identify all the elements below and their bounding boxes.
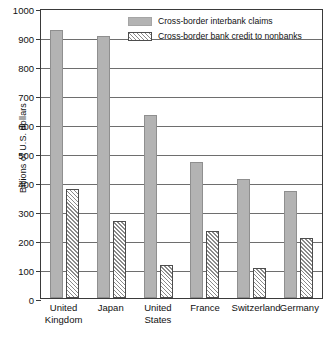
x-axis-label: France: [184, 302, 225, 340]
chart-legend: Cross-border interbank claims Cross-bord…: [128, 16, 302, 46]
x-axis-label-line: United: [43, 302, 84, 314]
bar-interbank-claims: [190, 162, 203, 298]
bar-group: [91, 10, 132, 298]
x-axis-label-line: Kingdom: [43, 314, 84, 326]
x-axis-label-line: Switzerland: [232, 302, 273, 314]
bar-groups: [41, 10, 322, 298]
x-axis-label-line: Japan: [90, 302, 131, 314]
x-axis-label: Switzerland: [232, 302, 273, 340]
y-axis-tick-label: 0: [29, 295, 34, 306]
bar-credit-to-nonbanks: [160, 265, 173, 298]
plot-area: 10009008007006005004003002001000: [40, 9, 323, 299]
x-axis-labels: UnitedKingdomJapanUnitedStatesFranceSwit…: [40, 302, 323, 340]
y-axis-tick-label: 200: [18, 237, 34, 248]
y-axis-tick-label: 100: [18, 266, 34, 277]
bar-chart: Billions of U.S. dollars 100090080070060…: [0, 0, 330, 341]
legend-label-credit-to-nonbanks: Cross-border bank credit to nonbanks: [158, 31, 302, 42]
legend-swatch-hatch-icon: [128, 32, 152, 41]
y-axis-tick-label: 400: [18, 179, 34, 190]
y-axis-tick-label: 300: [18, 208, 34, 219]
bar-group: [231, 10, 272, 298]
bar-credit-to-nonbanks: [66, 189, 79, 298]
bar-interbank-claims: [144, 115, 157, 298]
x-axis-label: Germany: [279, 302, 320, 340]
bar-interbank-claims: [97, 36, 110, 298]
y-axis-tick-label: 900: [18, 34, 34, 45]
bar-credit-to-nonbanks: [253, 268, 266, 298]
legend-label-interbank-claims: Cross-border interbank claims: [158, 16, 273, 27]
bar-group: [138, 10, 179, 298]
legend-item-interbank-claims: Cross-border interbank claims: [128, 16, 302, 27]
x-axis-label-line: States: [137, 314, 178, 326]
legend-item-credit-to-nonbanks: Cross-border bank credit to nonbanks: [128, 31, 302, 42]
y-axis-tick-label: 1000: [13, 5, 34, 16]
bar-interbank-claims: [284, 191, 297, 298]
y-axis-tick-label: 700: [18, 92, 34, 103]
bar-group: [184, 10, 225, 298]
bar-interbank-claims: [50, 30, 63, 298]
y-axis-tick-label: 500: [18, 150, 34, 161]
y-axis-tick-label: 800: [18, 63, 34, 74]
x-axis-label: Japan: [90, 302, 131, 340]
bar-group: [44, 10, 85, 298]
bar-credit-to-nonbanks: [300, 238, 313, 298]
x-axis-label: UnitedStates: [137, 302, 178, 340]
bar-interbank-claims: [237, 179, 250, 298]
x-axis-label-line: Germany: [279, 302, 320, 314]
legend-swatch-solid-icon: [128, 17, 152, 26]
y-axis-tick-mark: [36, 300, 41, 301]
bar-credit-to-nonbanks: [113, 221, 126, 298]
x-axis-label-line: France: [184, 302, 225, 314]
y-axis-tick-label: 600: [18, 121, 34, 132]
x-axis-label-line: United: [137, 302, 178, 314]
bar-group: [278, 10, 319, 298]
bar-credit-to-nonbanks: [206, 231, 219, 298]
x-axis-label: UnitedKingdom: [43, 302, 84, 340]
